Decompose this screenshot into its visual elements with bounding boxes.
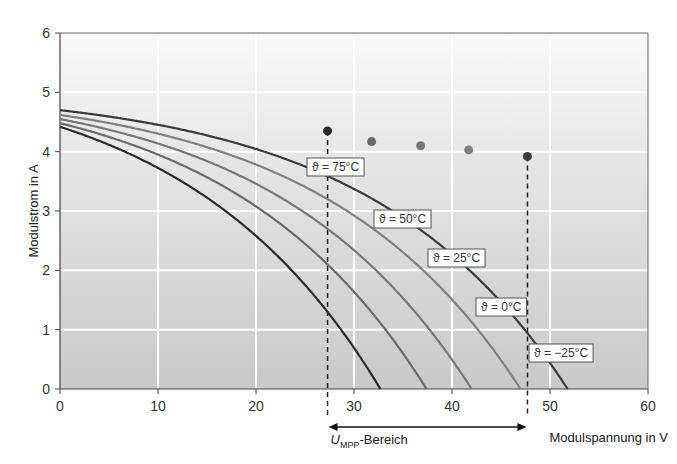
mpp-point [523,152,532,161]
y-tick-label: 5 [42,84,50,100]
temp-label-0c: ϑ = 0°C [476,298,526,316]
temp-label-text: ϑ = 25°C [433,251,480,265]
y-tick-label: 4 [42,144,50,160]
temp-label-minus25c: ϑ = −25°C [529,344,593,362]
mpp-point [416,141,425,150]
mpp-range-label-sub: MPP [340,440,360,450]
mpp-range-label-suffix: -Bereich [359,432,407,447]
temp-label-text: ϑ = 0°C [481,300,522,314]
x-tick-label: 0 [56,398,64,414]
mpp-range-label: UMPP-Bereich [331,432,408,450]
temp-label-text: ϑ = 50°C [379,212,426,226]
y-axis-title: Modulstrom in A [26,164,41,258]
y-tick-label: 2 [42,262,50,278]
range-arrow-left-head [329,423,338,431]
temp-label-75c: ϑ = 75°C [307,158,364,176]
x-tick-label: 40 [444,398,460,414]
x-tick-label: 60 [640,398,656,414]
y-tick-label: 1 [42,322,50,338]
y-tick-label: 0 [42,381,50,397]
iv-characteristic-chart: 0102030405060 0123456 ϑ = 75°Cϑ = 50°Cϑ … [0,0,677,464]
mpp-range-arrow [329,423,527,431]
mpp-point [323,126,332,135]
x-tick-label: 50 [542,398,558,414]
temp-label-25c: ϑ = 25°C [428,249,485,267]
x-tick-label: 10 [150,398,166,414]
temp-label-text: ϑ = 75°C [312,160,359,174]
y-tick-labels: 0123456 [42,25,60,397]
x-axis-title: Modulspannung in V [549,430,668,445]
x-tick-label: 30 [346,398,362,414]
y-tick-label: 6 [42,25,50,41]
mpp-point [464,145,473,154]
mpp-point [367,137,376,146]
x-tick-labels: 0102030405060 [56,389,656,414]
range-arrow-right-head [517,423,526,431]
x-tick-label: 20 [248,398,264,414]
temp-label-50c: ϑ = 50°C [374,210,431,228]
y-tick-label: 3 [42,203,50,219]
temp-label-text: ϑ = −25°C [534,346,588,360]
